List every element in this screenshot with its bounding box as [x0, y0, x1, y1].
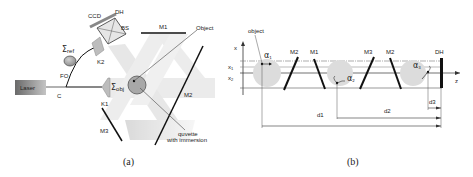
- figure: Laser C FO Σref K2 K1 Σobj CCD DH BS: [0, 0, 473, 177]
- quvette-label-2: with immersion: [166, 137, 207, 143]
- alpha1-label: α1: [264, 51, 272, 60]
- panel-b: x z x1 x2 object α1 M2 M1 M3 M2: [228, 28, 460, 168]
- sigma-ref-label: Σref: [62, 45, 74, 54]
- m1-label: M1: [159, 24, 168, 30]
- laser-label: Laser: [20, 85, 35, 91]
- m2-label: M2: [184, 92, 193, 98]
- mirror-b-m2-2: [390, 58, 401, 89]
- coupler-label: C: [57, 93, 62, 99]
- panel-a: Laser C FO Σref K2 K1 Σobj CCD DH BS: [15, 9, 215, 168]
- k2-label: K2: [97, 59, 105, 65]
- m3-label: M3: [100, 128, 109, 134]
- mirror-label-1: M2: [290, 49, 299, 55]
- object-circle-1: [253, 59, 281, 87]
- bs-label: BS: [121, 25, 129, 31]
- d3-label: d3: [429, 99, 436, 105]
- dh-label: DH: [115, 9, 124, 15]
- k1-label: K1: [101, 101, 109, 107]
- fiber-label: FO: [60, 73, 69, 79]
- object-label: Object: [196, 25, 214, 31]
- dh-label-b: DH: [435, 49, 444, 55]
- x-axis-label: x: [234, 45, 237, 51]
- k2-lens: [92, 37, 104, 56]
- object-label-b: object: [248, 28, 264, 34]
- k1-lens: [102, 78, 110, 97]
- alpha2-label: α2: [347, 74, 355, 83]
- mirror-b-m2-1: [284, 57, 298, 90]
- x2-label: x2: [228, 75, 234, 82]
- mirror-label-4: M2: [386, 49, 395, 55]
- dh-plate-b: [440, 58, 443, 88]
- mirror-label-2: M1: [310, 49, 319, 55]
- mirror-label-3: M3: [364, 49, 373, 55]
- d1-label: d1: [317, 112, 324, 118]
- caption-b: (b): [347, 156, 359, 168]
- x1-label: x1: [228, 64, 234, 71]
- ccd-label: CCD: [88, 13, 102, 19]
- mirror-b-m1: [314, 59, 325, 89]
- sigma-ref-ball: [64, 56, 76, 66]
- caption-a: (a): [123, 156, 134, 168]
- d2-label: d2: [384, 108, 391, 114]
- z-axis-label: z: [455, 78, 458, 84]
